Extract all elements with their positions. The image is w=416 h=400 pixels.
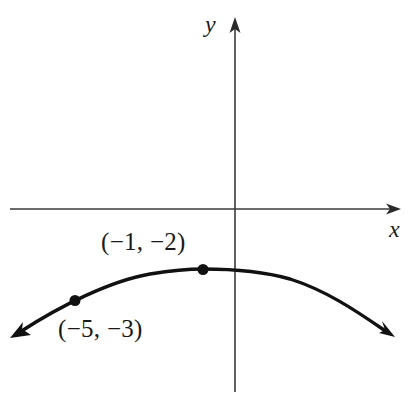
vertex-point-marker [198,264,209,275]
x-axis-label: x [389,217,400,241]
second-point-label: (−5, −3) [58,316,143,341]
y-axis [230,17,241,392]
second-point-marker [70,295,81,306]
vertex-point-label: (−1, −2) [101,229,186,254]
y-axis-label: y [205,12,216,36]
x-axis [10,204,401,215]
left-curve-arrow-icon [10,322,31,338]
